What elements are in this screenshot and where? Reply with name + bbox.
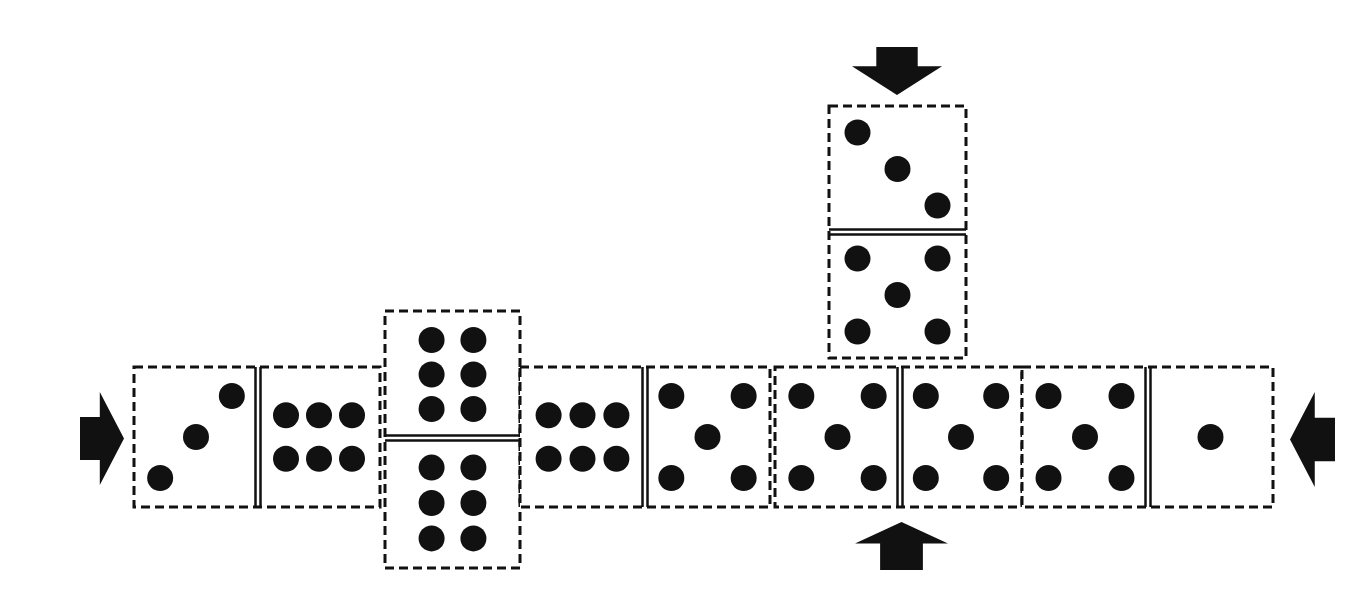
pip-dot [983, 383, 1009, 409]
pip-dot [731, 465, 757, 491]
pip-dot [1036, 383, 1062, 409]
pip-dot [570, 402, 596, 428]
domino-half-1-pips [1198, 424, 1224, 450]
pip-dot [419, 396, 445, 422]
domino-5-5 [775, 367, 1022, 507]
arrow-bottom-icon [855, 522, 948, 570]
pip-dot [460, 327, 486, 353]
pip-dot [658, 465, 684, 491]
pip-dot [419, 490, 445, 516]
pip-dot [825, 424, 851, 450]
pip-dot [845, 318, 871, 344]
pip-dot [885, 282, 911, 308]
pip-dot [861, 465, 887, 491]
pip-dot [183, 424, 209, 450]
pip-dot [695, 424, 721, 450]
pip-dot [788, 383, 814, 409]
pip-dot [219, 383, 245, 409]
pip-dot [731, 383, 757, 409]
pip-dot [460, 396, 486, 422]
pip-dot [1108, 465, 1134, 491]
pip-dot [419, 525, 445, 551]
pip-dot [460, 455, 486, 481]
pip-dot [861, 383, 887, 409]
domino-3-5 [829, 106, 966, 358]
pip-dot [1198, 424, 1224, 450]
pip-dot [603, 402, 629, 428]
pip-dot [983, 465, 1009, 491]
pip-dot [788, 465, 814, 491]
pip-dot [658, 383, 684, 409]
pip-dot [339, 446, 365, 472]
pip-dot [306, 446, 332, 472]
pip-dot [925, 246, 951, 272]
pip-dot [460, 525, 486, 551]
pip-dot [1072, 424, 1098, 450]
pip-dot [1036, 465, 1062, 491]
pip-dot [460, 490, 486, 516]
pip-dot [273, 402, 299, 428]
domino-5-1 [1022, 367, 1273, 507]
pip-dot [419, 327, 445, 353]
domino-6-6 [385, 311, 520, 568]
pip-dot [419, 455, 445, 481]
pip-dot [339, 402, 365, 428]
pip-dot [147, 465, 173, 491]
arrow-left-icon [80, 392, 124, 485]
pip-dot [925, 318, 951, 344]
pip-dot [1108, 383, 1134, 409]
pip-dot [536, 446, 562, 472]
pip-dot [845, 120, 871, 146]
pip-dot [948, 424, 974, 450]
pip-dot [460, 362, 486, 388]
arrow-right-icon [1290, 392, 1335, 487]
arrow-top-icon [852, 47, 942, 95]
domino-canvas [0, 0, 1362, 610]
pip-dot [306, 402, 332, 428]
pip-dot [845, 246, 871, 272]
pip-dot [913, 465, 939, 491]
domino-6-5 [520, 367, 770, 507]
pip-dot [925, 192, 951, 218]
pip-dot [570, 446, 596, 472]
pip-dot [885, 156, 911, 182]
pip-dot [913, 383, 939, 409]
pip-dot [273, 446, 299, 472]
pip-dot [603, 446, 629, 472]
pip-dot [419, 362, 445, 388]
pip-dot [536, 402, 562, 428]
domino-3-6 [134, 367, 380, 507]
